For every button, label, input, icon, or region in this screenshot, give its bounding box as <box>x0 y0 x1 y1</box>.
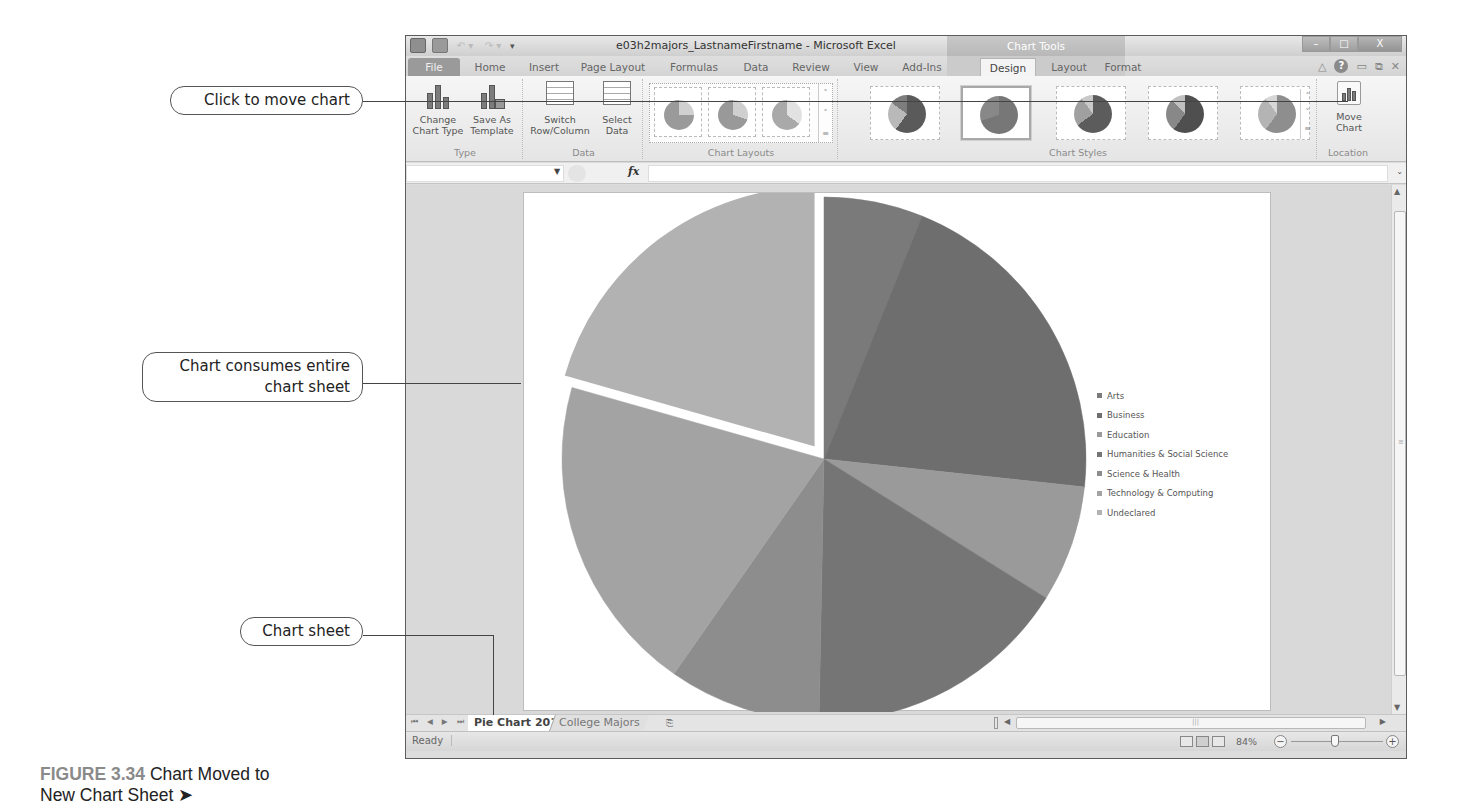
tab-data[interactable]: Data <box>736 58 776 76</box>
tab-insert[interactable]: Insert <box>522 58 566 76</box>
pie-layout-icon <box>772 100 802 130</box>
chart-layout-1[interactable] <box>654 87 702 137</box>
group-chart-layouts: ˄˅≡ Chart Layouts <box>645 79 838 159</box>
close-button[interactable]: X <box>1358 36 1402 52</box>
horizontal-scrollbar[interactable]: ◀ ||| ▶ <box>994 716 1390 730</box>
scroll-left-icon[interactable]: ◀ <box>1004 717 1010 726</box>
chart-style-3[interactable] <box>1056 86 1126 140</box>
leader-line-chart-sheet-h <box>363 635 493 636</box>
workbook-restore-icon[interactable]: ⧉ <box>1375 60 1383 73</box>
formula-cancel-enter <box>568 165 586 182</box>
undo-icon[interactable]: ↶ ▾ <box>454 40 476 52</box>
formula-input[interactable] <box>648 165 1388 182</box>
window-controls: – □ X <box>1302 36 1402 52</box>
help-icon[interactable]: ? <box>1334 59 1348 73</box>
name-box[interactable] <box>406 165 564 182</box>
insert-function-icon[interactable]: fx <box>628 165 639 178</box>
callout-move-chart: Click to move chart <box>170 86 363 115</box>
chart-styles-gallery <box>870 83 1312 143</box>
prev-sheet-icon[interactable]: ◀ <box>427 717 433 727</box>
scroll-right-icon[interactable]: ▶ <box>1380 717 1386 726</box>
normal-view-icon[interactable] <box>1180 736 1193 747</box>
chart-style-4[interactable] <box>1148 86 1218 140</box>
page-layout-view-icon[interactable] <box>1196 736 1209 747</box>
tab-view[interactable]: View <box>846 58 886 76</box>
switch-row-column-button[interactable]: Switch Row/Column <box>527 79 593 136</box>
legend-item[interactable]: Education <box>1097 425 1228 445</box>
customize-qat-icon[interactable]: ▾ <box>510 41 520 51</box>
tab-home[interactable]: Home <box>468 58 512 76</box>
callout-chart-consumes-sheet: Chart consumes entire chart sheet <box>142 352 363 402</box>
chart-styles-scroll[interactable]: ˄˅≡ <box>1300 89 1314 139</box>
page-break-view-icon[interactable] <box>1212 736 1225 747</box>
save-template-icon <box>477 81 507 111</box>
tab-file[interactable]: File <box>408 58 460 76</box>
change-chart-type-button[interactable]: Change Chart Type <box>412 79 464 136</box>
chart-layout-3[interactable] <box>762 87 810 137</box>
expand-formula-bar-icon[interactable]: ⌄ <box>1396 167 1403 176</box>
workbook-minimize-icon[interactable]: ▭ <box>1356 60 1366 73</box>
save-icon[interactable] <box>432 38 448 53</box>
tab-design[interactable]: Design <box>980 58 1036 76</box>
minimize-button[interactable]: – <box>1302 36 1330 52</box>
vertical-scroll-thumb[interactable]: ≡ <box>1394 211 1406 676</box>
switch-label-1: Switch <box>527 114 593 125</box>
callout-text-line-2: chart sheet <box>155 377 350 398</box>
legend-item[interactable]: Humanities & Social Science <box>1097 445 1228 465</box>
split-handle[interactable] <box>994 717 998 729</box>
zoom-in-button[interactable]: + <box>1386 735 1399 748</box>
tab-format[interactable]: Format <box>1098 58 1148 76</box>
group-chart-styles: ˄˅≡ Chart Styles <box>840 79 1317 159</box>
minimize-ribbon-icon[interactable]: △ <box>1318 60 1326 73</box>
legend-swatch-icon <box>1097 393 1102 398</box>
workbook-close-icon[interactable]: ✕ <box>1391 60 1400 73</box>
chart-layouts-scroll[interactable]: ˄˅≡ <box>818 84 832 142</box>
group-location: Move Chart Location <box>1319 79 1377 159</box>
status-ready: Ready <box>412 735 452 746</box>
insert-worksheet-icon[interactable]: ⎘ <box>654 715 684 731</box>
next-sheet-icon[interactable]: ▶ <box>442 717 448 727</box>
chart-style-1[interactable] <box>870 86 940 140</box>
chart-legend[interactable]: ArtsBusinessEducationHumanities & Social… <box>1097 386 1228 523</box>
tab-layout[interactable]: Layout <box>1046 58 1092 76</box>
name-box-dropdown-icon[interactable]: ▼ <box>554 167 560 176</box>
zoom-level[interactable]: 84% <box>1236 736 1257 747</box>
vertical-scrollbar[interactable]: ▲ ≡ ▼ <box>1391 185 1407 714</box>
sheet-nav-arrows: ⏮ ◀ ▶ ⏭ <box>411 717 464 727</box>
tab-add-ins[interactable]: Add-Ins <box>896 58 948 76</box>
tab-formulas[interactable]: Formulas <box>662 58 726 76</box>
legend-item[interactable]: Arts <box>1097 386 1228 406</box>
move-chart-button[interactable]: Move Chart <box>1327 79 1371 133</box>
title-bar: ↶ ▾ ↷ ▾ ▾ e03h2majors_LastnameFirstname … <box>406 36 1406 56</box>
redo-icon[interactable]: ↷ ▾ <box>482 40 504 52</box>
chart-area[interactable]: ArtsBusinessEducationHumanities & Social… <box>523 192 1271 711</box>
excel-window: ↶ ▾ ↷ ▾ ▾ e03h2majors_LastnameFirstname … <box>405 35 1407 759</box>
excel-app-icon[interactable] <box>410 38 426 53</box>
restore-button[interactable]: □ <box>1330 36 1358 52</box>
move-chart-label-2: Chart <box>1327 122 1371 133</box>
legend-item[interactable]: Technology & Computing <box>1097 484 1228 504</box>
figure-caption: FIGURE 3.34 Chart Moved to New Chart She… <box>40 764 360 806</box>
legend-item[interactable]: Business <box>1097 406 1228 426</box>
scroll-down-icon[interactable]: ▼ <box>1394 703 1400 712</box>
group-data: Switch Row/Column Select Data Data <box>525 79 643 159</box>
tab-review[interactable]: Review <box>786 58 836 76</box>
select-data-button[interactable]: Select Data <box>595 79 639 136</box>
first-sheet-icon[interactable]: ⏮ <box>411 717 418 727</box>
chart-tools-label: Chart Tools <box>947 36 1125 56</box>
save-as-template-button[interactable]: Save As Template <box>466 79 518 136</box>
figure-number: FIGURE 3.34 <box>40 764 145 784</box>
sheet-tab-college-majors[interactable]: College Majors <box>549 715 649 731</box>
horizontal-scroll-thumb[interactable]: ||| <box>1016 717 1366 729</box>
legend-item[interactable]: Science & Health <box>1097 464 1228 484</box>
zoom-slider-thumb[interactable] <box>1331 735 1339 747</box>
last-sheet-icon[interactable]: ⏭ <box>457 717 464 727</box>
scroll-up-icon[interactable]: ▲ <box>1394 187 1400 196</box>
leader-line-chart-consumes <box>363 383 521 384</box>
legend-item[interactable]: Undeclared <box>1097 503 1228 523</box>
legend-label: Business <box>1107 410 1144 420</box>
zoom-out-button[interactable]: − <box>1274 735 1287 748</box>
chart-style-2[interactable] <box>961 86 1031 140</box>
tab-page-layout[interactable]: Page Layout <box>576 58 650 76</box>
chart-layout-2[interactable] <box>708 87 756 137</box>
